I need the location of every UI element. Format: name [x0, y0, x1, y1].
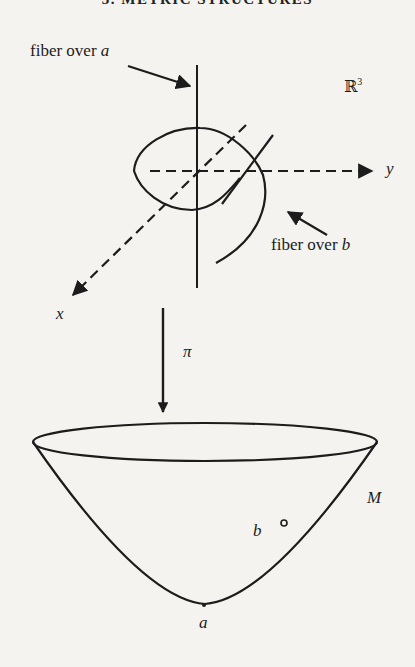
r3-exponent: 3 — [357, 76, 362, 87]
manifold-rim — [33, 423, 377, 461]
fiber-bundle-diagram — [0, 0, 415, 667]
fiber-b-variable: b — [342, 235, 351, 254]
fiber-a-pointer-arrow — [128, 66, 190, 86]
fiber-b-curve-outer — [134, 128, 265, 263]
fiber-b-curve-inner — [134, 171, 240, 210]
manifold-label: M — [367, 488, 381, 508]
r3-symbol: ℝ — [344, 77, 357, 96]
point-b-label: b — [253, 521, 262, 541]
x-axis-label: x — [56, 304, 64, 324]
point-b-marker — [281, 520, 287, 526]
point-a-label: a — [199, 613, 208, 633]
fiber-a-label-text: fiber over — [30, 41, 101, 60]
r3-space-label: ℝ3 — [344, 76, 362, 96]
x-axis-dashed — [73, 125, 246, 295]
y-axis-label: y — [386, 159, 394, 179]
fiber-a-variable: a — [101, 41, 110, 60]
fiber-b-pointer-arrow — [288, 212, 327, 235]
fiber-a-label: fiber over a — [30, 41, 109, 61]
page: 3. METRIC STRUCTURES — [0, 0, 415, 667]
point-a-marker — [202, 603, 206, 607]
manifold-body — [33, 442, 377, 604]
fiber-b-label-text: fiber over — [271, 235, 342, 254]
projection-label: π — [183, 342, 192, 362]
fiber-b-label: fiber over b — [271, 235, 350, 255]
